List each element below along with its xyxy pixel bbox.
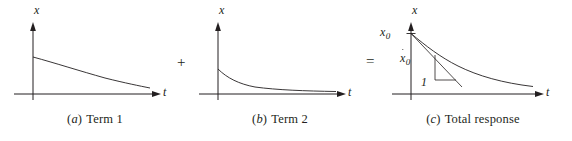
operator-equals: =: [366, 54, 374, 69]
caption-total-response: (c)Total response: [378, 112, 568, 127]
y-axis-arrowhead: [215, 22, 221, 31]
dotted-symbol-wrap: x: [400, 52, 405, 64]
y-axis-label: x: [219, 4, 224, 16]
y-axis-label: x: [34, 4, 39, 16]
plot-term-2: [185, 0, 375, 110]
initial-value-symbol: x: [380, 25, 385, 39]
t-axis-arrowhead: [337, 91, 346, 97]
caption-text: Total response: [445, 112, 520, 126]
caption-index: c: [431, 112, 437, 126]
caption-index-wrap: (a): [67, 112, 82, 126]
caption-term-2: (b)Term 2: [185, 112, 375, 127]
plot-term-1: [0, 0, 190, 110]
y-axis-label: x: [412, 4, 417, 16]
y-axis-arrowhead: [30, 22, 36, 31]
curve-term-2: [218, 69, 336, 92]
panel-term-1: x t (a)Term 1: [0, 0, 190, 141]
derivative-dot-icon: [402, 49, 404, 51]
t-axis-arrowhead: [152, 91, 161, 97]
t-axis-label: t: [546, 86, 549, 98]
initial-slope-symbol: x: [400, 51, 405, 65]
t-axis-label: t: [163, 86, 166, 98]
t-axis-label: t: [348, 86, 351, 98]
panel-term-2: x t (b)Term 2: [185, 0, 375, 141]
tangent-line: [411, 34, 462, 88]
caption-index: a: [71, 112, 77, 126]
caption-index-wrap: (c): [426, 112, 441, 126]
panel-total-response: x t x0 x0 1 (c)Total response: [378, 0, 568, 141]
curve-total-response: [411, 34, 533, 87]
y-axis-arrowhead: [408, 22, 414, 31]
initial-value-label: x0: [380, 26, 390, 41]
figure-root: x t (a)Term 1 + x t (b)Term 2 =: [0, 0, 572, 141]
caption-text: Term 1: [86, 112, 123, 126]
initial-slope-subscript: 0: [406, 57, 411, 67]
t-axis-arrowhead: [535, 91, 544, 97]
curve-term-1: [33, 57, 150, 88]
caption-index-wrap: (b): [252, 112, 267, 126]
slope-run-label: 1: [421, 76, 427, 88]
initial-slope-label: x0: [400, 52, 410, 67]
initial-value-subscript: 0: [386, 31, 391, 41]
caption-term-1: (a)Term 1: [0, 112, 190, 127]
caption-text: Term 2: [271, 112, 308, 126]
caption-index: b: [256, 112, 262, 126]
